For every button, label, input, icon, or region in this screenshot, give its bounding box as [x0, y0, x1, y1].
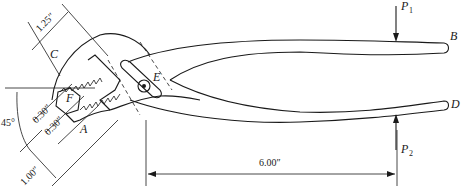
angle-45: 45°: [1, 117, 15, 128]
dim-6-00: 6.00″: [259, 157, 281, 168]
pliers-diagram: 1.25″ 45° 0.30″ 0.30″ 1.00″ 6.00″ P 1 P …: [0, 0, 461, 189]
dim-1-25: 1.25″: [33, 11, 56, 34]
label-P2: P: [400, 142, 409, 156]
dim-1-00: 1.00″: [18, 164, 41, 187]
upper-handle: [128, 40, 449, 80]
lower-handle: [130, 80, 449, 122]
label-P1-sub: 1: [409, 6, 413, 15]
arrow-left: [148, 171, 156, 177]
label-F: F: [65, 91, 74, 105]
jaw-inner: [88, 55, 200, 110]
pivot-E-center: [142, 84, 146, 88]
label-A: A: [79, 122, 88, 136]
label-B: B: [450, 29, 458, 43]
dashed-line-1: [108, 60, 140, 115]
lower-teeth: [80, 94, 120, 110]
arrowhead-P1: [393, 33, 399, 42]
arrow-right: [387, 171, 395, 177]
label-P1: P: [400, 0, 409, 13]
ext-line-125b: [62, 4, 108, 56]
label-C: C: [50, 47, 59, 61]
ext-line-100a: [20, 130, 42, 152]
angle-arc: [17, 92, 30, 150]
label-P2-sub: 2: [409, 149, 413, 158]
label-E: E: [152, 70, 161, 84]
label-D: D: [450, 97, 460, 111]
